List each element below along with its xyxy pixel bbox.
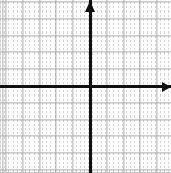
coordinate-grid-figure: Blank Cartesian coordinate plane with do… (0, 0, 171, 173)
plot-frame-bottom-edge (0, 172, 171, 173)
y-axis (89, 0, 92, 173)
y-axis-positive-arrow-icon (85, 1, 95, 12)
x-axis-positive-arrow-icon (162, 82, 171, 92)
x-axis (0, 85, 171, 88)
